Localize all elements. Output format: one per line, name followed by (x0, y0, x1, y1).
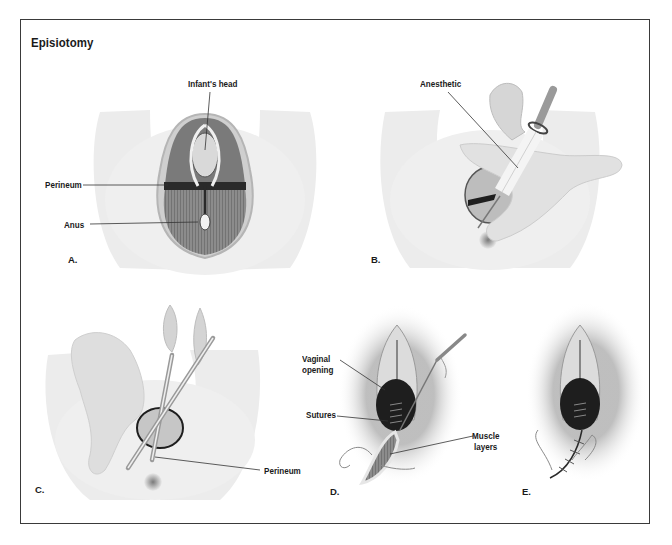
label-anesthetic: Anesthetic (420, 78, 461, 89)
panel-e-letter: E. (522, 486, 531, 497)
illustration-canvas (0, 0, 672, 545)
label-infants-head: Infant's head (188, 78, 237, 89)
label-vaginal: Vaginal (302, 353, 330, 364)
panel-e-illustration (526, 302, 646, 482)
panel-c-illustration (45, 305, 260, 500)
panel-a-anus (200, 214, 210, 230)
label-perineum-c: Perineum (264, 465, 301, 476)
panel-d-vaginal-opening (376, 379, 416, 431)
panel-c-letter: C. (35, 484, 45, 495)
panel-c-anus (144, 473, 162, 491)
label-layers: layers (474, 441, 497, 452)
panel-d-letter: D. (330, 486, 340, 497)
label-perineum-a: Perineum (45, 179, 82, 190)
label-muscle: Muscle (472, 430, 499, 441)
panel-a-infant-head (192, 133, 218, 177)
panel-b-letter: B. (371, 254, 381, 265)
panel-b-illustration (380, 83, 622, 270)
label-sutures: Sutures (306, 409, 336, 420)
panel-a-letter: A. (68, 254, 78, 265)
panel-d-illustration (337, 305, 473, 485)
label-opening: opening (302, 364, 333, 375)
panel-a-illustration (83, 92, 316, 275)
label-anus: Anus (64, 219, 84, 230)
